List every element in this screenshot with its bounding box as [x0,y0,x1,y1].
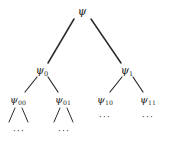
node-psi-root-symbol: ψ [78,5,87,18]
branching-tree-figure: ψ ψ0 ψ1 ψ00 ψ01 ψ10 ψ11 ··· ··· ··· ··· [0,0,169,143]
node-psi-0-subscript: 0 [44,70,48,78]
edge-psi1-to-psi10 [110,77,122,92]
node-psi-01-symbol: ψ [55,94,63,105]
node-psi-1-symbol: ψ [121,64,129,76]
node-psi-01-subscript: 01 [63,99,71,106]
edge-root-to-psi1 [91,19,121,63]
tree-edges-layer [0,0,169,143]
node-psi-11-subscript: 11 [148,99,156,106]
node-psi-root: ψ [78,6,87,17]
edge-psi0-to-psi00 [25,77,37,92]
edge-psi00-stub-left [9,108,15,122]
edge-psi00-stub-right [22,108,28,122]
node-psi-10: ψ10 [97,95,113,105]
edge-psi1-to-psi11 [133,77,143,92]
node-psi-11-symbol: ψ [140,94,148,105]
edge-root-to-psi0 [48,19,74,63]
node-psi-0: ψ0 [36,65,48,76]
node-psi-00: ψ00 [10,95,26,105]
node-psi-1: ψ1 [121,65,133,76]
node-psi-10-symbol: ψ [97,94,105,105]
node-psi-00-subscript: 00 [18,99,26,106]
edge-psi01-stub-right [67,108,73,122]
node-psi-0-symbol: ψ [36,64,44,76]
node-psi-10-subscript: 10 [105,99,113,106]
edge-psi01-stub-left [54,108,60,122]
node-psi-1-subscript: 1 [129,70,133,78]
ellipsis-under-psi10: ··· [99,113,111,122]
ellipsis-under-psi00: ··· [13,127,25,136]
node-psi-01: ψ01 [55,95,71,105]
ellipsis-under-psi11: ··· [142,113,154,122]
edge-psi0-to-psi01 [48,77,58,92]
node-psi-11: ψ11 [140,95,156,105]
ellipsis-under-psi01: ··· [58,127,70,136]
node-psi-00-symbol: ψ [10,94,18,105]
